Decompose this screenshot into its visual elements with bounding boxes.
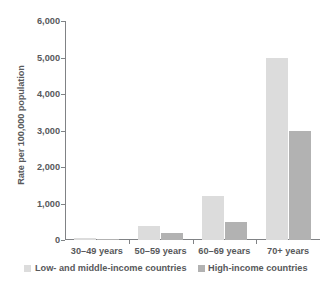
bar-low-middle-income bbox=[202, 196, 224, 240]
legend-item: High-income countries bbox=[198, 263, 308, 273]
y-axis-tick-mark bbox=[61, 21, 65, 22]
y-axis-tick-label: 4,000 bbox=[14, 89, 60, 99]
bar-high-income bbox=[97, 239, 119, 240]
bar-low-middle-income bbox=[74, 238, 96, 240]
legend-label: High-income countries bbox=[208, 263, 308, 273]
y-axis-tick-mark bbox=[61, 204, 65, 205]
y-axis-tick-label: 6,000 bbox=[14, 16, 60, 26]
bar-high-income bbox=[289, 131, 311, 241]
y-axis-tick-mark bbox=[61, 94, 65, 95]
bar-high-income bbox=[161, 233, 183, 240]
x-axis-tick-mark bbox=[193, 240, 194, 244]
bar-chart: Rate per 100,000 population 01,0002,0003… bbox=[0, 0, 332, 290]
y-axis-tick-label: 5,000 bbox=[14, 53, 60, 63]
y-axis-tick-label: 0 bbox=[14, 235, 60, 245]
chart-legend: Low- and middle-income countriesHigh-inc… bbox=[0, 263, 332, 273]
y-axis-tick-label: 1,000 bbox=[14, 199, 60, 209]
legend-item: Low- and middle-income countries bbox=[24, 263, 186, 273]
y-axis-tick-mark bbox=[61, 131, 65, 132]
bar-low-middle-income bbox=[138, 226, 160, 240]
y-axis-tick-label: 2,000 bbox=[14, 162, 60, 172]
x-axis-tick-label: 30–49 years bbox=[65, 246, 129, 256]
bar-high-income bbox=[225, 222, 247, 240]
x-axis-tick-mark bbox=[256, 240, 257, 244]
x-axis-tick-label: 60–69 years bbox=[193, 246, 257, 256]
legend-color-swatch bbox=[198, 265, 205, 272]
y-axis-tick-mark bbox=[61, 58, 65, 59]
y-axis-tick-mark bbox=[61, 167, 65, 168]
legend-color-swatch bbox=[24, 265, 31, 272]
legend-label: Low- and middle-income countries bbox=[35, 263, 187, 273]
bar-low-middle-income bbox=[266, 58, 288, 241]
x-axis-tick-label: 50–59 years bbox=[129, 246, 193, 256]
x-axis-tick-mark bbox=[129, 240, 130, 244]
y-axis-tick-label: 3,000 bbox=[14, 126, 60, 136]
y-axis-tick-mark bbox=[61, 240, 65, 241]
x-axis-tick-label: 70+ years bbox=[256, 246, 320, 256]
